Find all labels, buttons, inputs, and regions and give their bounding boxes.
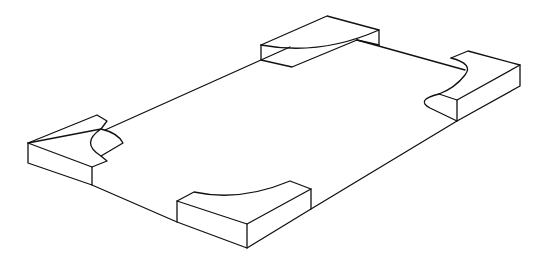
block-bottom (177, 181, 311, 248)
plate-back-right-edge (357, 40, 465, 70)
block-right (424, 51, 520, 121)
block-left (28, 115, 123, 185)
plate-back-left-edge (105, 60, 261, 130)
plate-with-corner-blocks-diagram (0, 0, 546, 254)
plate-front-left-edge (92, 185, 177, 222)
plate (92, 40, 465, 222)
block-top (261, 16, 379, 67)
plate-front-right-edge (311, 121, 457, 209)
